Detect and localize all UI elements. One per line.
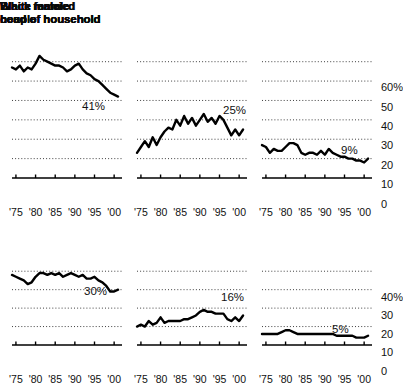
plot-area-white-married (262, 262, 374, 355)
y-tick-label: 10 (381, 347, 393, 358)
y-tick-label: 20 (381, 329, 393, 340)
y-tick-label: 30 (381, 310, 393, 321)
x-tick-label: '00 (103, 374, 125, 385)
y-tick-label: 40% (381, 292, 403, 303)
y-tick-label-zero: 0 (381, 366, 387, 377)
x-tick-label: '00 (228, 374, 250, 385)
x-tick-label: '00 (353, 374, 375, 385)
data-line-white-married (262, 330, 368, 337)
chart-title-white-married: White married couple (0, 0, 125, 26)
value-annotation-white-married: 5% (332, 323, 349, 335)
gridlines-white-married (262, 271, 372, 326)
